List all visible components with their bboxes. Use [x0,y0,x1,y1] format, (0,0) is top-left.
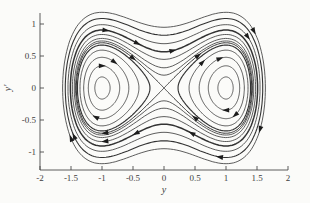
x-tick-label: 0 [162,173,167,183]
y-axis-label: y' [2,84,13,92]
orbit-left-well [80,50,139,126]
orbit-right-well [208,66,239,110]
y-tick-label: 0.5 [25,51,37,61]
flow-arrow [189,132,196,137]
x-tick-label: 2 [286,173,291,183]
trajectory-curves [63,12,266,163]
flow-arrow [92,115,99,120]
phase-portrait-figure: -2-1.5-1-0.500.511.52-1-0.500.51yy' [0,0,310,203]
orbit-right-well [218,77,233,99]
orbit-left-well [95,77,110,99]
y-tick-label: -1 [29,147,37,157]
y-tick-label: 1 [32,19,37,29]
x-tick-label: 1.5 [251,173,263,183]
y-tick-label: -0.5 [22,115,37,125]
flow-arrow [169,49,176,54]
x-tick-label: -1 [98,173,106,183]
flow-arrow [133,40,140,45]
x-axis-label: y [161,184,167,195]
flow-arrow [216,57,223,62]
phase-portrait-canvas: -2-1.5-1-0.500.511.52-1-0.500.51yy' [0,0,310,203]
flow-arrow [102,28,109,33]
flow-arrow [216,155,223,160]
y-tick-label: 0 [32,83,37,93]
x-tick-label: -1.5 [64,173,79,183]
flow-arrow [110,58,117,64]
x-tick-label: -0.5 [126,173,141,183]
flow-arrow [99,63,106,68]
flow-arrow [259,126,264,133]
flow-arrow [222,108,229,113]
x-tick-label: 1 [224,173,229,183]
flow-arrow [101,139,108,144]
orbit-left-well [88,66,119,110]
x-tick-label: 0.5 [189,173,201,183]
flow-arrow [133,130,140,135]
x-tick-label: -2 [36,173,44,183]
